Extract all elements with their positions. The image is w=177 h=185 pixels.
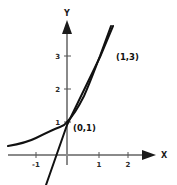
x-tick-label-1: 1 (97, 161, 102, 169)
coordinate-plot: Y X 3 2 1 -1 1 2 (0,1) (1,3) (0, 0, 177, 185)
x-tick-label-2: 2 (126, 161, 131, 169)
y-tick-label-1: 1 (55, 119, 60, 127)
y-tick-label-3: 3 (55, 53, 60, 61)
y-tick-label-2: 2 (55, 86, 60, 94)
x-tick-label-neg1: -1 (32, 161, 40, 169)
x-axis-arrow-icon (142, 150, 156, 160)
point-label-1-3: (1,3) (116, 52, 139, 62)
y-axis-label: Y (63, 9, 70, 18)
y-axis-arrow-icon (62, 20, 72, 34)
graph-figure: Y X 3 2 1 -1 1 2 (0,1) (1,3) (0, 0, 177, 185)
x-axis-label: X (161, 151, 168, 160)
point-label-0-1: (0,1) (73, 123, 96, 133)
